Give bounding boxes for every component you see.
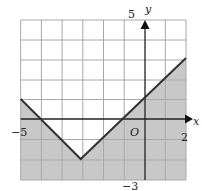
y-bottom-label: −3 bbox=[122, 180, 138, 191]
origin-label: O bbox=[130, 126, 139, 139]
x-axis-label: x bbox=[193, 115, 200, 128]
y-axis-arrow-icon bbox=[141, 20, 150, 29]
x-axis-arrow-icon bbox=[185, 115, 193, 124]
y-axis-label: y bbox=[144, 3, 152, 16]
x-left-label: −5 bbox=[11, 126, 27, 139]
y-top-label: 5 bbox=[128, 8, 135, 21]
graph: 5 y x O −5 2 −3 bbox=[0, 0, 202, 191]
x-right-label: 2 bbox=[181, 131, 188, 144]
